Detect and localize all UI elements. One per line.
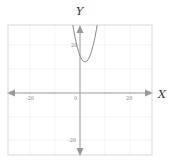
x-axis-label: X bbox=[157, 88, 167, 101]
chart: -20 0 20 20 -20 Y X bbox=[0, 0, 175, 167]
tick-origin: 0 bbox=[74, 95, 77, 101]
y-axis-label: Y bbox=[76, 5, 85, 18]
tick-y-neg20: -20 bbox=[68, 137, 76, 143]
y-axis bbox=[77, 25, 84, 156]
parabola-curve bbox=[72, 20, 98, 62]
arrow-up-icon bbox=[77, 25, 84, 33]
tick-x-20: 20 bbox=[126, 95, 132, 101]
tick-y-20: 20 bbox=[71, 42, 77, 48]
tick-x-neg20: -20 bbox=[26, 95, 34, 101]
